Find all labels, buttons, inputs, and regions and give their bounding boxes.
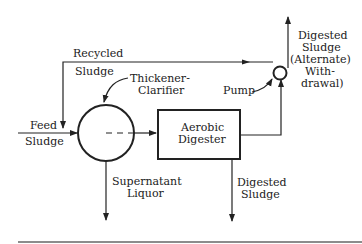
feed-sludge-label: Sludge — [25, 135, 64, 148]
process-diagram: Recycled Sludge Thickener- Clarifier Fee… — [0, 0, 362, 244]
thickener-pointer — [104, 78, 128, 102]
recycle-arrowhead-icon — [242, 60, 250, 65]
digester-label-2: Digester — [178, 133, 226, 146]
alt-drawal-label: drawal) — [301, 77, 344, 90]
pump-pointer — [252, 79, 272, 92]
clarifier-label: Clarifier — [138, 84, 185, 97]
recycled-sludge-label: Sludge — [75, 65, 114, 78]
pump-label: Pump — [223, 84, 255, 97]
digested-sludge-label: Sludge — [241, 188, 280, 201]
liquor-label: Liquor — [127, 187, 165, 200]
recycled-label: Recycled — [73, 47, 123, 60]
pump-icon — [274, 67, 287, 80]
feed-label: Feed — [30, 119, 57, 132]
